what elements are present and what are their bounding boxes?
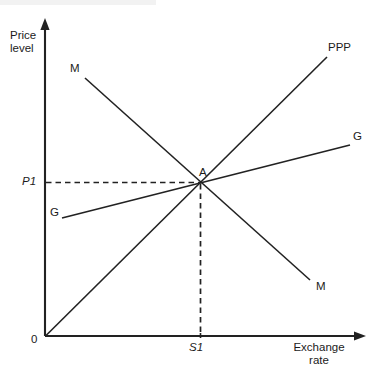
m-curve-label-bottom: M — [316, 280, 326, 293]
x-axis-tick-label-s1: S1 — [189, 341, 203, 354]
g-curve-label-left: G — [50, 206, 59, 219]
m-curve-label-top: M — [70, 62, 80, 75]
ppp-curve — [46, 57, 328, 336]
ppp-curve-label: PPP — [328, 41, 351, 54]
curve-group — [46, 57, 351, 336]
diagram-canvas: Price level M PPP G P1 A G M 0 S1 Exchan… — [0, 0, 380, 384]
equilibrium-point-label: A — [199, 166, 207, 179]
origin-label: 0 — [31, 333, 37, 346]
g-curve-label-right: G — [353, 130, 362, 143]
x-axis-label: Exchange rate — [283, 341, 355, 367]
y-axis-label: Price level — [10, 29, 36, 55]
y-axis-arrowhead — [40, 18, 49, 30]
y-axis-tick-label-p1: P1 — [22, 175, 36, 188]
g-curve — [62, 145, 350, 218]
x-axis-arrowhead — [354, 331, 366, 340]
diagram-graphics — [0, 0, 380, 384]
